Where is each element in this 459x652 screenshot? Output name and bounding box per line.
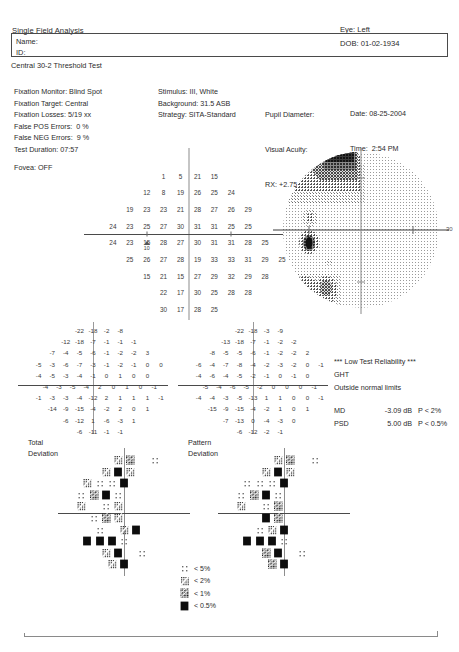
probability-symbol [261, 509, 270, 519]
probability-symbol [101, 486, 110, 496]
deviation-value: -5 [233, 394, 246, 401]
text-line: Total [28, 437, 58, 448]
deviation-value: 1 [274, 394, 287, 401]
threshold-value: 29 [207, 272, 221, 279]
deviation-value: 0 [127, 405, 140, 412]
axis-tick [231, 232, 232, 237]
pattern-deviation-label: PatternDeviation [188, 437, 218, 459]
probability-symbol [83, 474, 92, 484]
deviation-value: 1 [121, 383, 134, 390]
probability-symbol [77, 486, 86, 496]
threshold-value: 25 [140, 222, 154, 229]
deviation-value: -4 [247, 360, 260, 367]
deviation-value: 2 [93, 383, 106, 390]
deviation-value: -6 [73, 427, 86, 434]
deviation-value: -2 [287, 360, 300, 367]
deviation-value: 0 [274, 371, 287, 378]
text-line: False POS Errors: 0 % [14, 121, 102, 133]
threshold-value: 22 [157, 289, 171, 296]
footer-tick-left [24, 633, 25, 637]
deviation-value: -6 [100, 416, 113, 423]
probability-symbol [95, 521, 104, 531]
probability-symbol [83, 532, 92, 542]
exam-date: Date: 08-25-2004 [350, 108, 406, 120]
threshold-value: 25 [123, 255, 137, 262]
threshold-value: 31 [224, 239, 238, 246]
deviation-value: -2 [114, 360, 127, 367]
deviation-value: 0 [294, 383, 307, 390]
deviation-value: 0 [134, 383, 147, 390]
deviation-value: -2 [260, 405, 273, 412]
legend-label: < 2% [194, 577, 210, 584]
probability-symbol [120, 555, 129, 565]
threshold-value: 31 [190, 222, 204, 229]
deviation-value: -12 [59, 338, 72, 345]
index-row: MD-3.09 dBP < 2% [334, 405, 447, 418]
deviation-value: -7 [219, 360, 232, 367]
pattern-deviation-probability-plot [218, 448, 350, 576]
probability-symbol [243, 474, 252, 484]
probability-symbol [273, 497, 282, 507]
threshold-value: 26 [140, 255, 154, 262]
threshold-value: 25 [207, 305, 221, 312]
legend-row: < 1% [180, 587, 216, 600]
deviation-value: -9 [59, 405, 72, 412]
deviation-value: -7 [46, 349, 59, 356]
legend-label: < 0.5% [194, 602, 216, 609]
deviation-value: -4 [73, 371, 86, 378]
probability-symbol [280, 555, 289, 565]
probability-symbol [261, 544, 270, 554]
deviation-value: -1 [100, 360, 113, 367]
probability-legend: < 5%< 2%< 1%< 0.5% [180, 562, 216, 612]
deviation-value: -4 [213, 383, 226, 390]
probability-symbol [95, 532, 104, 542]
deviation-value: -12 [73, 416, 86, 423]
index-probability: P < 2% [418, 405, 441, 418]
deviation-value: -22 [233, 327, 246, 334]
axis-tick [146, 232, 147, 237]
deviation-value: -13 [233, 416, 246, 423]
deviation-value: -7 [87, 338, 100, 345]
text-line: Stimulus: III, White [158, 86, 236, 98]
legend-symbol-p1 [180, 588, 189, 598]
deviation-value: -2 [247, 371, 260, 378]
deviation-value: -4 [192, 371, 205, 378]
id-field-label: ID: [16, 48, 25, 57]
threshold-value: 17 [174, 305, 188, 312]
deviation-value: -5 [199, 383, 212, 390]
deviation-value: 0 [247, 416, 260, 423]
threshold-value: 28 [241, 289, 255, 296]
probability-symbol [273, 509, 282, 519]
test-type-label: Central 30-2 Threshold Test [11, 61, 102, 70]
deviation-value: 1 [141, 394, 154, 401]
deviation-value: -4 [87, 405, 100, 412]
threshold-value: 25 [224, 222, 238, 229]
deviation-value: -7 [247, 338, 260, 345]
threshold-value: 33 [207, 255, 221, 262]
deviation-value: -4 [39, 383, 52, 390]
deviation-value: -1 [87, 371, 100, 378]
probability-symbol [120, 532, 129, 542]
threshold-value: 33 [224, 255, 238, 262]
deviation-value: -1 [100, 427, 113, 434]
threshold-value: 32 [224, 272, 238, 279]
deviation-value: -9 [274, 327, 287, 334]
probability-symbol [107, 532, 116, 542]
probability-symbol [310, 451, 319, 461]
deviation-value: -5 [233, 371, 246, 378]
deviation-value: 0 [141, 371, 154, 378]
probability-symbol [77, 497, 86, 507]
deviation-value: -2 [274, 349, 287, 356]
probability-symbol [150, 451, 159, 461]
threshold-value: 28 [190, 305, 204, 312]
threshold-value: 25 [207, 189, 221, 196]
deviation-value: -6 [226, 383, 239, 390]
text-line: Test Duration: 07:57 [14, 144, 102, 156]
probability-symbol [298, 544, 307, 554]
deviation-value: 1 [274, 405, 287, 412]
index-key: MD [334, 405, 360, 418]
deviation-value: -3 [260, 327, 273, 334]
deviation-value: -7 [73, 360, 86, 367]
low-reliability-warning: *** Low Test Reliability *** [334, 355, 416, 368]
deviation-value: -2 [260, 427, 273, 434]
